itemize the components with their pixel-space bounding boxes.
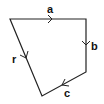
label-r: r [12,53,17,65]
label-b: b [91,40,98,52]
vector-diagram: a b c r [0,0,104,104]
label-a: a [47,3,54,15]
label-c: c [64,87,70,99]
polygon-outline [10,19,86,96]
